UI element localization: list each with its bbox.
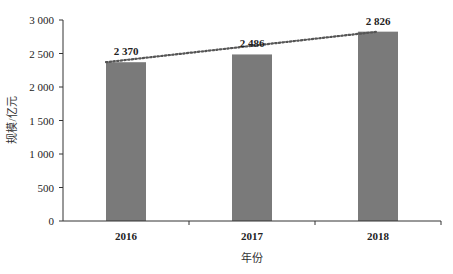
y-tick-label: 1 500	[29, 115, 54, 127]
category-label: 2017	[241, 230, 264, 242]
x-axis-category-labels: 201620172018	[115, 230, 390, 242]
data-label-2017: 2 486	[240, 37, 265, 49]
x-axis-title: 年份	[241, 251, 263, 264]
bar-2016	[106, 62, 146, 221]
data-label-2018: 2 826	[366, 15, 391, 27]
y-tick-label: 0	[49, 215, 55, 227]
y-tick-label: 1 000	[29, 148, 54, 160]
y-tick-label: 2 000	[29, 81, 54, 93]
bar-chart: 05001 0001 5002 0002 5003 000 2 3702 486…	[0, 0, 453, 274]
y-tick-label: 3 000	[29, 14, 54, 26]
y-tick-label: 500	[38, 182, 55, 194]
category-label: 2018	[367, 230, 390, 242]
y-axis-title: 规模/亿元	[5, 96, 18, 143]
data-label-2016: 2 370	[114, 45, 139, 57]
bar-2018	[358, 32, 398, 221]
category-label: 2016	[115, 230, 138, 242]
y-axis-ticks: 05001 0001 5002 0002 5003 000	[29, 14, 63, 227]
bars	[106, 32, 398, 221]
y-tick-label: 2 500	[29, 48, 54, 60]
x-axis-ticks	[189, 221, 441, 225]
bar-2017	[232, 54, 272, 221]
